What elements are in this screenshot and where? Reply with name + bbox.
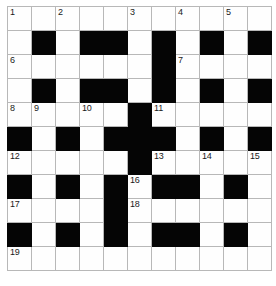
crossword-letter-cell[interactable]: [80, 55, 104, 79]
crossword-letter-cell[interactable]: [32, 223, 56, 247]
crossword-letter-cell[interactable]: [104, 151, 128, 175]
crossword-letter-cell[interactable]: 7: [176, 55, 200, 79]
crossword-letter-cell[interactable]: [128, 247, 152, 271]
crossword-letter-cell[interactable]: 19: [8, 247, 32, 271]
crossword-letter-cell[interactable]: 4: [176, 7, 200, 31]
crossword-letter-cell[interactable]: [128, 79, 152, 103]
crossword-letter-cell[interactable]: [56, 103, 80, 127]
crossword-letter-cell[interactable]: [32, 7, 56, 31]
crossword-letter-cell[interactable]: [80, 175, 104, 199]
crossword-letter-cell[interactable]: [248, 199, 272, 223]
crossword-letter-cell[interactable]: [200, 103, 224, 127]
crossword-block-cell: [224, 175, 248, 199]
crossword-letter-cell[interactable]: [80, 247, 104, 271]
crossword-letter-cell[interactable]: [32, 151, 56, 175]
crossword-letter-cell[interactable]: [224, 247, 248, 271]
crossword-letter-cell[interactable]: [176, 31, 200, 55]
crossword-letter-cell[interactable]: 15: [248, 151, 272, 175]
crossword-letter-cell[interactable]: [176, 103, 200, 127]
crossword-letter-cell[interactable]: [200, 7, 224, 31]
crossword-letter-cell[interactable]: [224, 31, 248, 55]
clue-number: 5: [226, 7, 231, 18]
clue-number: 9: [34, 103, 39, 114]
crossword-letter-cell[interactable]: 5: [224, 7, 248, 31]
crossword-letter-cell[interactable]: 18: [128, 199, 152, 223]
crossword-letter-cell[interactable]: [56, 247, 80, 271]
clue-number: 18: [130, 199, 140, 210]
crossword-letter-cell[interactable]: [32, 247, 56, 271]
crossword-letter-cell[interactable]: [152, 7, 176, 31]
crossword-letter-cell[interactable]: [80, 151, 104, 175]
crossword-letter-cell[interactable]: [176, 151, 200, 175]
crossword-letter-cell[interactable]: [248, 247, 272, 271]
crossword-letter-cell[interactable]: [200, 55, 224, 79]
crossword-letter-cell[interactable]: [176, 247, 200, 271]
crossword-letter-cell[interactable]: [224, 79, 248, 103]
crossword-letter-cell[interactable]: [224, 151, 248, 175]
crossword-letter-cell[interactable]: 3: [128, 7, 152, 31]
crossword-letter-cell[interactable]: [104, 7, 128, 31]
crossword-letter-cell[interactable]: 16: [128, 175, 152, 199]
crossword-letter-cell[interactable]: [176, 199, 200, 223]
crossword-block-cell: [176, 175, 200, 199]
crossword-letter-cell[interactable]: [32, 199, 56, 223]
crossword-letter-cell[interactable]: [224, 127, 248, 151]
crossword-letter-cell[interactable]: [224, 103, 248, 127]
crossword-letter-cell[interactable]: [152, 199, 176, 223]
crossword-letter-cell[interactable]: [80, 7, 104, 31]
crossword-letter-cell[interactable]: [104, 103, 128, 127]
crossword-block-cell: [8, 175, 32, 199]
crossword-block-cell: [152, 223, 176, 247]
crossword-letter-cell[interactable]: [56, 199, 80, 223]
crossword-letter-cell[interactable]: 9: [32, 103, 56, 127]
crossword-block-cell: [152, 55, 176, 79]
crossword-letter-cell[interactable]: [56, 31, 80, 55]
crossword-letter-cell[interactable]: [128, 223, 152, 247]
crossword-letter-cell[interactable]: [200, 175, 224, 199]
crossword-letter-cell[interactable]: [32, 175, 56, 199]
crossword-letter-cell[interactable]: [152, 247, 176, 271]
crossword-letter-cell[interactable]: [104, 247, 128, 271]
crossword-letter-cell[interactable]: [80, 199, 104, 223]
crossword-letter-cell[interactable]: [248, 175, 272, 199]
crossword-letter-cell[interactable]: 6: [8, 55, 32, 79]
crossword-letter-cell[interactable]: 2: [56, 7, 80, 31]
crossword-letter-cell[interactable]: [176, 79, 200, 103]
crossword-letter-cell[interactable]: [32, 127, 56, 151]
crossword-letter-cell[interactable]: 11: [152, 103, 176, 127]
crossword-block-cell: [248, 79, 272, 103]
crossword-letter-cell[interactable]: [8, 31, 32, 55]
crossword-letter-cell[interactable]: [56, 151, 80, 175]
crossword-letter-cell[interactable]: [56, 55, 80, 79]
clue-number: 1: [10, 7, 15, 18]
crossword-letter-cell[interactable]: 13: [152, 151, 176, 175]
crossword-letter-cell[interactable]: 17: [8, 199, 32, 223]
crossword-letter-cell[interactable]: [200, 223, 224, 247]
crossword-letter-cell[interactable]: [32, 55, 56, 79]
crossword-letter-cell[interactable]: [8, 79, 32, 103]
crossword-letter-cell[interactable]: [248, 223, 272, 247]
crossword-letter-cell[interactable]: 1: [8, 7, 32, 31]
crossword-letter-cell[interactable]: [248, 7, 272, 31]
crossword-letter-cell[interactable]: [248, 103, 272, 127]
crossword-letter-cell[interactable]: 8: [8, 103, 32, 127]
crossword-letter-cell[interactable]: [248, 55, 272, 79]
crossword-letter-cell[interactable]: [224, 55, 248, 79]
crossword-letter-cell[interactable]: 12: [8, 151, 32, 175]
crossword-block-cell: [152, 31, 176, 55]
crossword-letter-cell[interactable]: [176, 127, 200, 151]
crossword-block-cell: [248, 31, 272, 55]
clue-number: 13: [154, 151, 164, 162]
crossword-letter-cell[interactable]: [200, 199, 224, 223]
crossword-letter-cell[interactable]: [200, 247, 224, 271]
crossword-letter-cell[interactable]: [56, 79, 80, 103]
crossword-letter-cell[interactable]: 14: [200, 151, 224, 175]
crossword-block-cell: [104, 79, 128, 103]
crossword-letter-cell[interactable]: [224, 199, 248, 223]
crossword-letter-cell[interactable]: [104, 55, 128, 79]
crossword-letter-cell[interactable]: [80, 223, 104, 247]
crossword-letter-cell[interactable]: [80, 127, 104, 151]
crossword-letter-cell[interactable]: 10: [80, 103, 104, 127]
crossword-letter-cell[interactable]: [128, 31, 152, 55]
crossword-letter-cell[interactable]: [128, 55, 152, 79]
